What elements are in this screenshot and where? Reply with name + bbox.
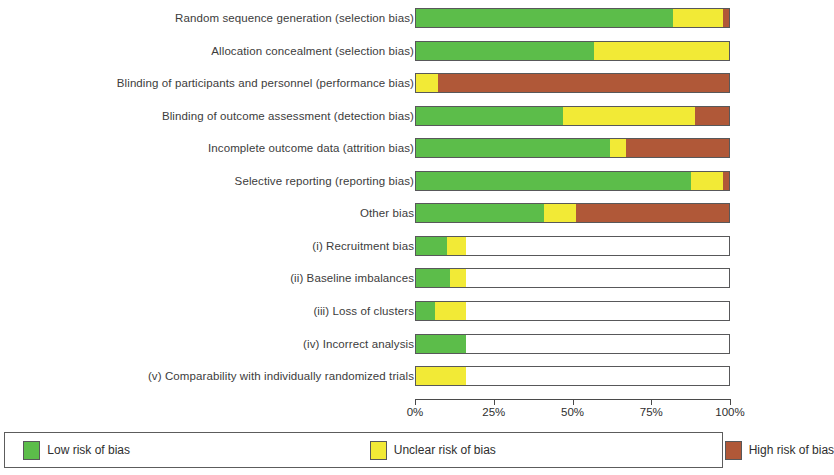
bar-row: (iv) Incorrect analysis [0, 331, 731, 357]
bar-row-label: (ii) Baseline imbalances [290, 265, 414, 291]
bar-segment-unclear [610, 139, 626, 157]
bar-segment-high [438, 74, 729, 92]
stacked-bar [415, 138, 730, 158]
bar-row-label: (iii) Loss of clusters [313, 298, 414, 324]
bar-segment-low [416, 42, 594, 60]
bar-row: Selective reporting (reporting bias) [0, 168, 731, 194]
chart-legend: Low risk of biasUnclear risk of biasHigh… [4, 432, 723, 468]
bar-segment-low [416, 139, 610, 157]
x-axis-tick [651, 399, 652, 405]
bar-segment-high [576, 204, 729, 222]
bar-segment-unclear [544, 204, 575, 222]
legend-item: Low risk of bias [23, 440, 130, 460]
bar-row: (iii) Loss of clusters [0, 298, 731, 324]
x-axis-tick [573, 399, 574, 405]
bar-row-label: (iv) Incorrect analysis [303, 331, 414, 357]
bar-segment-low [416, 172, 691, 190]
stacked-bar [415, 73, 730, 93]
legend-item: Unclear risk of bias [370, 440, 496, 460]
bar-segment-unclear [450, 269, 466, 287]
bar-segment-unclear [416, 367, 466, 385]
legend-swatch-icon [23, 441, 40, 460]
bar-row-label: Selective reporting (reporting bias) [235, 168, 414, 194]
legend-label: High risk of bias [749, 443, 834, 457]
stacked-bar [415, 301, 730, 321]
bar-segment-high [723, 9, 729, 27]
x-axis-tick [730, 399, 731, 405]
bar-segment-high [695, 107, 729, 125]
stacked-bar [415, 366, 730, 386]
bar-row-label: Blinding of outcome assessment (detectio… [162, 103, 414, 129]
bar-row-label: Allocation concealment (selection bias) [211, 38, 414, 64]
bar-segment-low [416, 269, 450, 287]
legend-label: Unclear risk of bias [394, 443, 496, 457]
bar-row: (ii) Baseline imbalances [0, 265, 731, 291]
bar-segment-high [626, 139, 729, 157]
stacked-bar [415, 41, 730, 61]
bar-row: Other bias [0, 200, 731, 226]
bar-segment-unclear [416, 74, 438, 92]
stacked-bar [415, 268, 730, 288]
bar-segment-low [416, 335, 466, 353]
bar-row: Incomplete outcome data (attrition bias) [0, 135, 731, 161]
bar-segment-low [416, 107, 563, 125]
legend-swatch-icon [370, 441, 387, 460]
bar-row-label: (i) Recruitment bias [312, 233, 414, 259]
stacked-bar [415, 203, 730, 223]
x-axis-tick-label: 100% [715, 406, 744, 418]
bar-row: Blinding of outcome assessment (detectio… [0, 103, 731, 129]
bar-segment-unclear [691, 172, 722, 190]
x-axis-tick-label: 50% [561, 406, 584, 418]
bar-row: Random sequence generation (selection bi… [0, 5, 731, 31]
bar-row-label: Blinding of participants and personnel (… [117, 70, 414, 96]
bar-row-label: Other bias [360, 200, 414, 226]
x-axis-tick [494, 399, 495, 405]
bar-segment-low [416, 302, 435, 320]
x-axis-tick-label: 75% [640, 406, 663, 418]
bar-row-label: (v) Comparability with individually rand… [148, 363, 414, 389]
bar-row-label: Incomplete outcome data (attrition bias) [208, 135, 414, 161]
bar-segment-unclear [563, 107, 694, 125]
bar-row: Allocation concealment (selection bias) [0, 38, 731, 64]
bar-row: (i) Recruitment bias [0, 233, 731, 259]
bar-segment-high [723, 172, 729, 190]
stacked-bar [415, 334, 730, 354]
x-axis-tick-label: 0% [407, 406, 424, 418]
legend-item: High risk of bias [725, 440, 834, 460]
bar-segment-unclear [447, 237, 466, 255]
bar-row: (v) Comparability with individually rand… [0, 363, 731, 389]
stacked-bar [415, 171, 730, 191]
x-axis-tick-label: 25% [482, 406, 505, 418]
bar-row-label: Random sequence generation (selection bi… [175, 5, 414, 31]
x-axis-tick [415, 399, 416, 405]
stacked-bar [415, 8, 730, 28]
bar-segment-unclear [594, 42, 729, 60]
bar-segment-low [416, 204, 544, 222]
bar-row: Blinding of participants and personnel (… [0, 70, 731, 96]
legend-swatch-icon [725, 441, 742, 460]
stacked-bar [415, 106, 730, 126]
bar-segment-unclear [673, 9, 723, 27]
bar-segment-unclear [435, 302, 466, 320]
bar-segment-low [416, 237, 447, 255]
legend-label: Low risk of bias [47, 443, 130, 457]
bar-segment-low [416, 9, 673, 27]
stacked-bar [415, 236, 730, 256]
